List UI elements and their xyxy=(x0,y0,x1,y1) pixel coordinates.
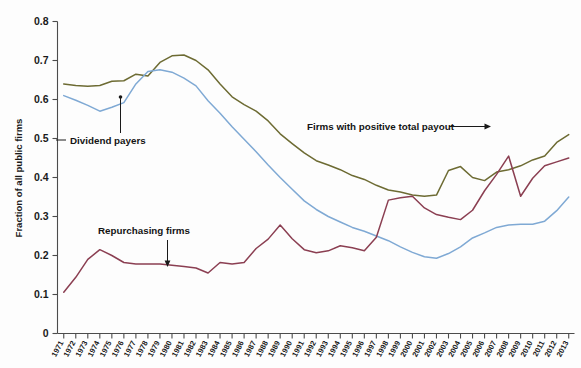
y-axis-title-group: Fraction of all public firms xyxy=(13,119,24,238)
repurchasing-firms-arrowhead xyxy=(165,261,171,268)
y-tick-label: 0.8 xyxy=(34,15,49,27)
positive-payout-arrowhead xyxy=(485,124,492,130)
annotation-label-dividend-payers: Dividend payers xyxy=(70,135,146,146)
dividend-payers-leader-dot xyxy=(119,95,123,99)
y-tick-label: 0.4 xyxy=(34,171,49,183)
y-tick-label: 0.7 xyxy=(34,54,49,66)
axes-group xyxy=(58,22,575,334)
y-tick-group: 00.10.20.30.40.50.60.70.8 xyxy=(34,15,58,339)
y-tick-label: 0.3 xyxy=(34,210,49,222)
x-tick-label: 2013 xyxy=(555,339,571,358)
line-chart-svg: Fraction of all public firms 00.10.20.30… xyxy=(0,0,581,368)
annotation-positive-total-payout: Firms with positive total payout xyxy=(307,121,491,132)
series-group xyxy=(64,55,569,292)
x-tick-group: 1971197219731974197519761977197819791980… xyxy=(50,334,571,359)
y-tick-label: 0 xyxy=(43,327,49,339)
y-tick-label: 0.5 xyxy=(34,132,49,144)
annotation-label-repurchasing-firms: Repurchasing firms xyxy=(98,225,191,236)
annotation-repurchasing-firms: Repurchasing firms xyxy=(98,225,191,267)
y-tick-label: 0.1 xyxy=(34,288,49,300)
y-tick-label: 0.6 xyxy=(34,93,49,105)
y-tick-label: 0.2 xyxy=(34,249,49,261)
annotation-dividend-payers: Dividend payers xyxy=(56,95,146,145)
chart-figure: Fraction of all public firms 00.10.20.30… xyxy=(0,0,581,368)
y-axis-title: Fraction of all public firms xyxy=(13,119,24,238)
annotation-label-positive-total-payout: Firms with positive total payout xyxy=(307,121,455,132)
